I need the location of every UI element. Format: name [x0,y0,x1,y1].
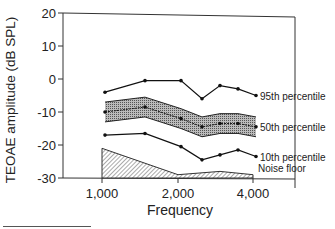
noise-floor-area [102,148,253,178]
svg-text:10th percentile: 10th percentile [260,152,326,163]
svg-text:20: 20 [42,6,56,21]
svg-text:4,000: 4,000 [237,186,270,201]
svg-text:1,000: 1,000 [86,186,119,201]
x-axis-label: Frequency [130,202,230,218]
svg-text:50th percentile: 50th percentile [260,122,326,133]
svg-text:0: 0 [49,72,56,87]
svg-text:Noise floor: Noise floor [258,163,306,174]
svg-text:95th percentile: 95th percentile [260,91,326,102]
chart-plot: 20100-10-20-301,0002,0004,000 95th perce… [0,0,335,229]
svg-text:-30: -30 [37,171,56,186]
svg-text:2,000: 2,000 [162,186,195,201]
svg-text:-20: -20 [37,138,56,153]
svg-text:10: 10 [42,39,56,54]
footer-rule [3,226,91,227]
series-labels: 95th percentile50th percentile10th perce… [258,91,326,175]
svg-text:-10: -10 [37,105,56,120]
